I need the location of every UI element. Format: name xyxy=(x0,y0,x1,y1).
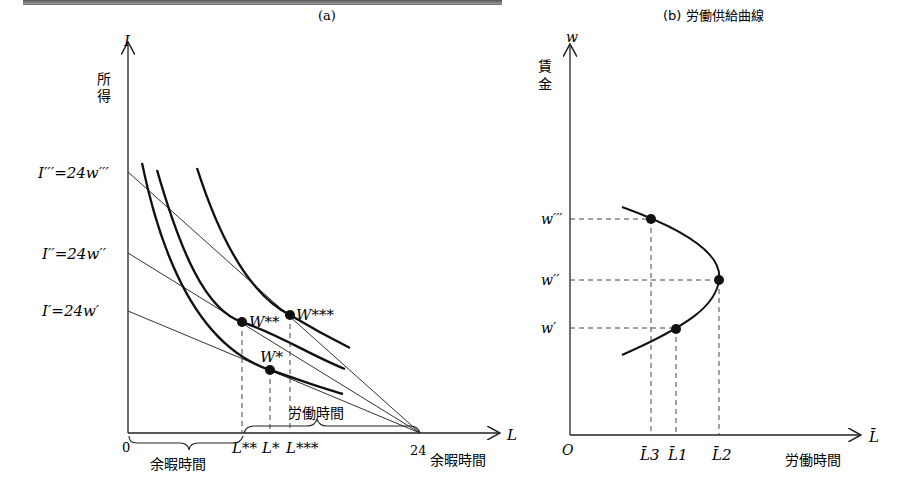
point-W2star xyxy=(237,317,247,327)
budget-label-2: I′′=24w′′ xyxy=(41,245,107,263)
point-Wstar xyxy=(265,365,275,375)
label-W3star: W*** xyxy=(296,306,334,324)
tick-L3star: L*** xyxy=(285,439,319,457)
leisure-axis-label: L xyxy=(506,426,517,444)
labor-supply-curve xyxy=(622,207,719,355)
tick-L1: L̄1 xyxy=(667,446,688,464)
budget-line-2 xyxy=(128,253,420,433)
tick-w1: w′ xyxy=(541,320,557,336)
panel-b-title: (b) 労働供給曲線 xyxy=(663,8,764,23)
tick-w2: w′′ xyxy=(541,272,560,288)
tick-L2star: L** xyxy=(231,439,257,457)
labor-caption: 労働時間 xyxy=(785,452,841,468)
label-Wstar: W* xyxy=(260,348,283,366)
income-jp-1: 所 xyxy=(97,71,111,87)
point-w1 xyxy=(671,324,681,334)
budget-label-1: I′=24w′ xyxy=(41,302,100,320)
end-leisure-caption: 余暇時間 xyxy=(430,452,486,468)
wage-jp-2: 金 xyxy=(538,76,552,92)
labor-axis-label: L̄ xyxy=(868,428,879,446)
tick-L2: L̄2 xyxy=(711,446,732,464)
income-jp-2: 得 xyxy=(97,88,111,104)
point-W3star xyxy=(285,310,295,320)
indifference-curve-2 xyxy=(157,170,345,369)
labor-brace-caption: 労働時間 xyxy=(288,405,344,421)
budget-label-3: I′′′=24w′′′ xyxy=(37,164,109,182)
point-w3 xyxy=(646,214,656,224)
tick-w3: w′′′ xyxy=(541,211,563,227)
diagram-canvas: (a) I 所 得 L 0 24 余暇時間 I′′′=24w′′′ I′′=24… xyxy=(0,0,919,501)
end-24-label: 24 xyxy=(410,443,427,458)
panel-a-title: (a) xyxy=(318,8,336,23)
panel-a: (a) I 所 得 L 0 24 余暇時間 I′′′=24w′′′ I′′=24… xyxy=(37,8,517,472)
tick-L3: L̄3 xyxy=(639,446,660,464)
income-axis-label: I xyxy=(123,32,131,50)
leisure-brace-caption: 余暇時間 xyxy=(150,456,206,472)
tick-Lstar: L* xyxy=(261,439,280,457)
budget-line-3 xyxy=(128,172,420,433)
panel-b: (b) 労働供給曲線 w 賃 金 L̄ O 労働時間 w′′′ w′′ w′ L… xyxy=(538,8,879,468)
leisure-brace xyxy=(129,436,243,450)
wage-jp-1: 賃 xyxy=(538,58,552,74)
point-w2 xyxy=(714,275,724,285)
origin-label: 0 xyxy=(122,440,130,455)
origin-O-label: O xyxy=(562,442,574,458)
labor-brace xyxy=(244,419,420,433)
label-W2star: W** xyxy=(249,313,280,331)
wage-axis-label: w xyxy=(566,29,578,45)
